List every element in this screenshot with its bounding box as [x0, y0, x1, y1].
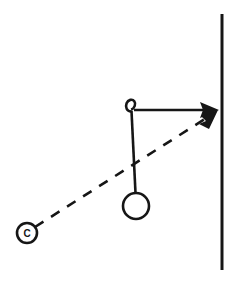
diagram-canvas: C: [0, 0, 243, 285]
ball-c-label: C: [23, 228, 30, 239]
canvas-background: [0, 0, 243, 285]
physics-diagram-figure: C: [0, 0, 243, 285]
